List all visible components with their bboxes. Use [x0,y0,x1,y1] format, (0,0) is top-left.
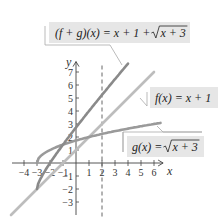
fg-callout-text: (f + g)(x) = x + 1 + [55,26,150,40]
f-callout-leader [140,92,147,106]
x-tick-label: 1 [87,167,92,178]
y-tick-label: 4 [68,106,73,117]
f-callout-text: f(x) = x + 1 [155,91,211,105]
fg-callout-text-radicand: x + 3 [159,26,185,40]
x-tick-label: −4 [19,167,30,178]
x-tick-label: 4 [126,167,131,178]
y-tick-label: −2 [62,184,73,195]
g-callout-text-radicand: x + 3 [171,140,197,154]
function-sum-chart: xy−4−3−2−1123456−3−2−11234567(f + g)(x) … [0,0,218,224]
y-tick-label: −3 [62,197,73,208]
y-tick-label: 6 [68,80,73,91]
x-tick-label: 6 [152,167,157,178]
y-tick-label: 7 [68,67,73,78]
y-tick-label: 5 [68,93,73,104]
x-tick-label: 5 [139,167,144,178]
g-callout-text: g(x) = [132,140,162,154]
x-tick-label: 3 [113,167,118,178]
y-tick-label: −1 [62,171,73,182]
y-tick-label: 3 [68,119,73,130]
x-axis-label: x [166,164,173,178]
